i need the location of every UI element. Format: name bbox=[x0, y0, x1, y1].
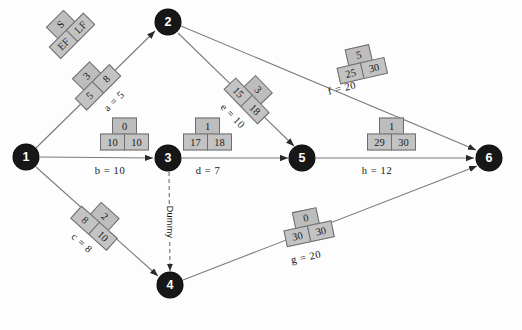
edge-b bbox=[40, 157, 153, 158]
activity-box-b: 0 10 10 bbox=[100, 118, 148, 151]
activity-h-slack: 1 bbox=[379, 118, 404, 135]
activity-label-b: b = 10 bbox=[95, 165, 126, 176]
activity-box-h: 1 29 30 bbox=[367, 118, 415, 151]
dummy-activity-label: Dummy bbox=[165, 205, 175, 240]
activity-label-h: h = 12 bbox=[362, 165, 393, 176]
network-diagram-canvas: S EF LF 3 5 8 a = 5 0 10 10 b = 10 2 bbox=[0, 0, 522, 330]
node-1[interactable]: 1 bbox=[13, 144, 39, 170]
activity-h-ef: 29 bbox=[367, 134, 392, 151]
node-6[interactable]: 6 bbox=[476, 145, 502, 171]
activity-d-lf: 18 bbox=[207, 134, 232, 151]
activity-d-ef: 17 bbox=[183, 134, 208, 151]
activity-d-slack: 1 bbox=[195, 118, 220, 135]
activity-b-slack: 0 bbox=[112, 118, 137, 135]
node-4[interactable]: 4 bbox=[157, 272, 183, 298]
activity-h-lf: 30 bbox=[391, 134, 416, 151]
node-3[interactable]: 3 bbox=[155, 145, 181, 171]
activity-b-ef: 10 bbox=[100, 134, 125, 151]
activity-box-d: 1 17 18 bbox=[183, 118, 231, 151]
activity-b-lf: 10 bbox=[124, 134, 149, 151]
network-edges-svg bbox=[0, 0, 522, 330]
node-5[interactable]: 5 bbox=[289, 145, 315, 171]
node-2[interactable]: 2 bbox=[155, 9, 181, 35]
activity-label-d: d = 7 bbox=[196, 165, 221, 176]
